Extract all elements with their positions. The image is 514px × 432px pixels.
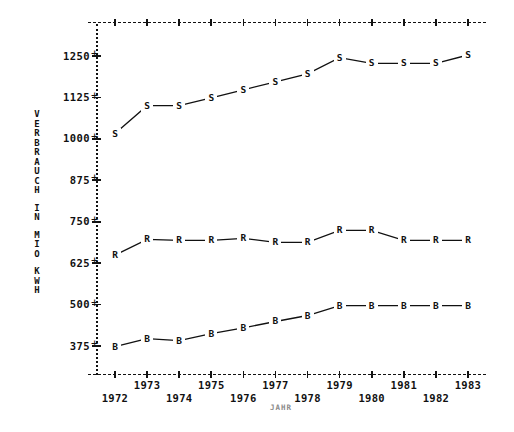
y-tick: [92, 179, 101, 181]
x-axis-title: JAHR: [246, 404, 316, 412]
data-point-marker-r: R: [269, 236, 281, 248]
x-tick-bottom: [210, 371, 212, 378]
y-tick-label-wrap: 1250: [28, 51, 90, 62]
x-tick-label: 1976: [221, 393, 265, 404]
x-tick-top: [178, 19, 180, 26]
data-point-marker-r: R: [334, 224, 346, 236]
y-tick-label: 1125: [30, 92, 90, 103]
data-point-marker-s: S: [334, 52, 346, 64]
data-point-marker-s: S: [173, 100, 185, 112]
data-point-marker-r: R: [398, 234, 410, 246]
x-tick-label: 1983: [446, 380, 490, 391]
x-tick-top: [243, 19, 245, 26]
data-point-marker-b: B: [109, 341, 121, 353]
data-point-marker-b: B: [269, 315, 281, 327]
x-tick-label: 1973: [125, 380, 169, 391]
series-path-b: [115, 306, 468, 347]
data-point-marker-b: B: [366, 300, 378, 312]
data-point-marker-r: R: [462, 234, 474, 246]
y-tick-label-wrap: 375: [28, 341, 90, 352]
y-tick: [92, 221, 101, 223]
y-axis-title-char: O: [30, 250, 44, 260]
x-tick-top: [403, 19, 405, 26]
data-point-marker-s: S: [141, 100, 153, 112]
data-point-marker-b: B: [430, 300, 442, 312]
left-axis-line: [96, 24, 98, 375]
data-point-marker-s: S: [237, 84, 249, 96]
data-point-marker-s: S: [462, 49, 474, 61]
y-tick-label: 1250: [30, 51, 90, 62]
series-path-r: [115, 230, 468, 255]
y-axis-title-char: N: [30, 213, 44, 223]
y-tick: [92, 97, 101, 99]
y-tick: [92, 345, 101, 347]
data-point-marker-b: B: [398, 300, 410, 312]
x-tick-bottom: [275, 371, 277, 378]
y-tick-label: 375: [30, 341, 90, 352]
x-tick-label: 1975: [189, 380, 233, 391]
y-tick: [92, 138, 101, 140]
x-tick-top: [210, 19, 212, 26]
data-point-marker-r: R: [205, 234, 217, 246]
data-point-marker-b: B: [205, 328, 217, 340]
data-point-marker-s: S: [269, 76, 281, 88]
data-point-marker-b: B: [237, 322, 249, 334]
x-tick-top: [114, 19, 116, 26]
x-tick-top: [339, 19, 341, 26]
data-point-marker-s: S: [366, 57, 378, 69]
plot-area: 1972197319741975197619771978197919801981…: [0, 0, 514, 432]
x-tick-label: 1974: [157, 393, 201, 404]
data-point-marker-b: B: [141, 333, 153, 345]
x-tick-label: 1982: [414, 393, 458, 404]
x-tick-bottom: [178, 371, 180, 378]
x-tick-bottom: [146, 371, 148, 378]
x-tick-bottom: [467, 371, 469, 378]
x-tick-label: 1978: [286, 393, 330, 404]
data-point-marker-s: S: [109, 128, 121, 140]
x-tick-bottom: [339, 371, 341, 378]
data-point-marker-r: R: [366, 224, 378, 236]
data-point-marker-s: S: [302, 68, 314, 80]
data-point-marker-r: R: [430, 234, 442, 246]
x-tick-top: [371, 19, 373, 26]
data-point-marker-s: S: [430, 57, 442, 69]
x-tick-top: [146, 19, 148, 26]
data-point-marker-r: R: [302, 236, 314, 248]
y-tick: [92, 304, 101, 306]
data-point-marker-r: R: [173, 234, 185, 246]
series-path-s: [115, 55, 468, 134]
y-axis-title-char: H: [30, 186, 44, 196]
data-point-marker-s: S: [205, 92, 217, 104]
chart-screenshot: 1972197319741975197619771978197919801981…: [0, 0, 514, 432]
x-tick-top: [275, 19, 277, 26]
data-point-marker-b: B: [173, 335, 185, 347]
x-tick-label: 1972: [93, 393, 137, 404]
x-tick-label: 1981: [382, 380, 426, 391]
data-point-marker-r: R: [109, 249, 121, 261]
data-point-marker-b: B: [462, 300, 474, 312]
y-axis-title-char: H: [30, 286, 44, 296]
y-tick-label: 500: [30, 299, 90, 310]
x-tick-bottom: [114, 371, 116, 378]
x-tick-label: 1977: [253, 380, 297, 391]
y-tick: [92, 262, 101, 264]
x-tick-bottom: [403, 371, 405, 378]
y-tick: [92, 55, 101, 57]
x-tick-bottom: [307, 371, 309, 378]
data-point-marker-r: R: [141, 233, 153, 245]
x-tick-bottom: [243, 371, 245, 378]
data-point-marker-b: B: [334, 300, 346, 312]
data-point-marker-s: S: [398, 57, 410, 69]
data-point-marker-b: B: [302, 310, 314, 322]
x-tick-label: 1979: [318, 380, 362, 391]
x-tick-bottom: [435, 371, 437, 378]
x-tick-top: [435, 19, 437, 26]
y-tick-label-wrap: 1125: [28, 92, 90, 103]
x-tick-bottom: [371, 371, 373, 378]
y-tick-label-wrap: 500: [28, 299, 90, 310]
x-tick-label: 1980: [350, 393, 394, 404]
data-point-marker-r: R: [237, 232, 249, 244]
x-tick-top: [307, 19, 309, 26]
x-tick-top: [467, 19, 469, 26]
y-axis-title: VERBRAUCHINMIOKWH: [30, 110, 44, 296]
